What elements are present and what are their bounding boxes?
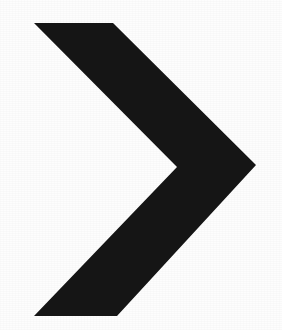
image-canvas: Right-pointing chevron (0, 0, 282, 330)
chevron-right-icon: Right-pointing chevron (0, 0, 282, 330)
